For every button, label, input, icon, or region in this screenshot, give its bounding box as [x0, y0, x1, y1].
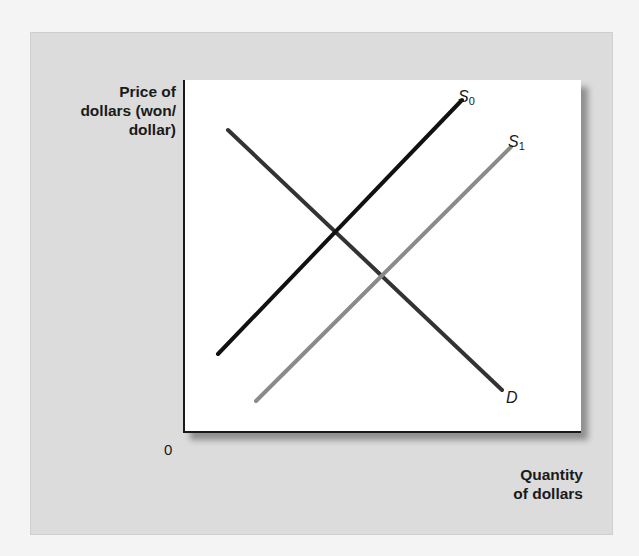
y-axis-label: Price of dollars (won/ dollar): [26, 82, 176, 139]
y-axis-label-line2: dollars (won/: [26, 101, 176, 120]
s0-label: S0: [458, 88, 475, 107]
x-axis-label-line1: Quantity: [433, 465, 583, 484]
demand-curve-d: [228, 130, 502, 390]
y-axis-label-line3: dollar): [26, 120, 176, 139]
s1-label-sub: 1: [519, 140, 525, 152]
d-label-main: D: [506, 389, 518, 406]
d-label: D: [506, 389, 518, 407]
s1-label: S1: [508, 133, 525, 152]
origin-label: 0: [164, 441, 172, 458]
s1-label-main: S: [508, 133, 519, 150]
x-axis-label: Quantity of dollars: [433, 465, 583, 503]
x-axis-label-line2: of dollars: [433, 484, 583, 503]
s0-label-sub: 0: [469, 95, 475, 107]
y-axis-label-line1: Price of: [26, 82, 176, 101]
s0-label-main: S: [458, 88, 469, 105]
